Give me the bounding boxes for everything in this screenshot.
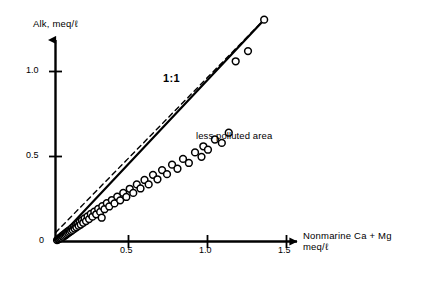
data-point <box>245 48 252 55</box>
y-tick-label-1-0: 1.0 <box>26 65 39 75</box>
data-point <box>192 149 199 156</box>
x-axis-label-line2: meq/ℓ <box>303 241 392 252</box>
data-point <box>174 165 181 172</box>
one-to-one-annotation: 1:1 <box>163 72 180 84</box>
x-axis-label: Nonmarine Ca + Mg meq/ℓ <box>303 230 392 252</box>
chart-figure: Alk, meq/ℓ Nonmarine Ca + Mg meq/ℓ 1.0 0… <box>0 0 421 284</box>
data-point <box>123 194 130 201</box>
data-point <box>261 16 268 23</box>
y-axis-label: Alk, meq/ℓ <box>33 18 78 29</box>
x-axis-label-line1: Nonmarine Ca + Mg <box>303 230 392 241</box>
data-point <box>130 189 137 196</box>
y-tick-label-0-5: 0.5 <box>26 150 39 160</box>
y-tick-label-0: 0 <box>39 235 44 245</box>
data-point <box>164 171 171 178</box>
data-point <box>185 160 192 167</box>
data-point <box>198 153 205 160</box>
less-polluted-area-annotation: less polluted area <box>196 130 272 141</box>
x-tick-label-0-5: 0.5 <box>120 245 133 255</box>
x-tick-label-1-0: 1.0 <box>199 245 212 255</box>
data-point <box>98 214 105 221</box>
data-point <box>232 58 239 65</box>
data-point <box>137 185 144 192</box>
data-point <box>154 176 161 183</box>
data-point <box>145 181 152 188</box>
data-point <box>205 146 212 153</box>
x-tick-label-1-5: 1.5 <box>278 245 291 255</box>
